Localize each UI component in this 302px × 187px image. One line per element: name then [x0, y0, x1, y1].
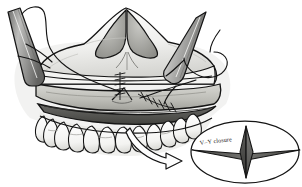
surgical-illustration: V–Y closure [0, 0, 302, 187]
inset-v-y-closure: V–Y closure [191, 121, 300, 183]
illustration-canvas: V–Y closure [0, 0, 302, 187]
